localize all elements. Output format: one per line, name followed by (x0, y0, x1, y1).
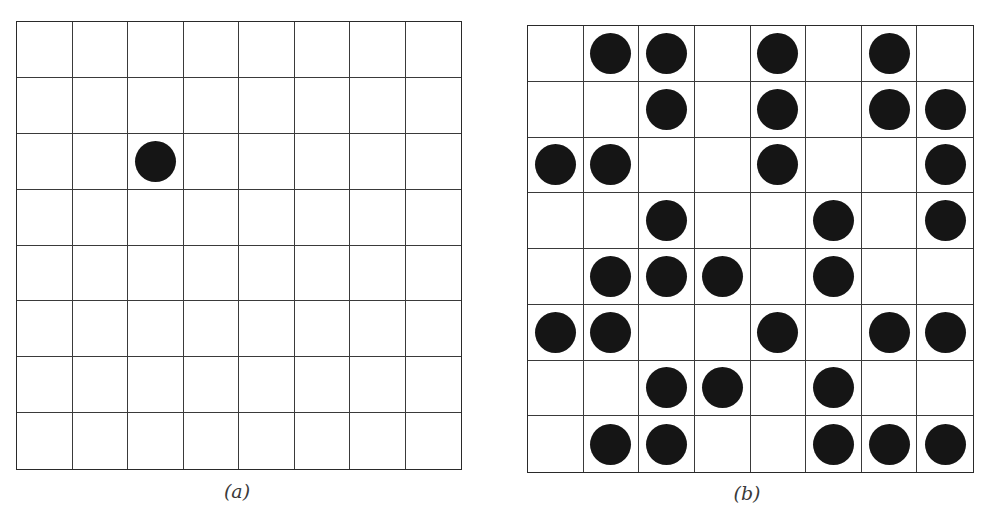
filled-circle-icon (757, 312, 798, 353)
grid-cell (528, 82, 584, 138)
grid-cell (806, 249, 862, 305)
grid-cell (239, 78, 295, 134)
grid-cell (128, 22, 184, 78)
grid-cell (295, 246, 351, 302)
grid-cell (862, 249, 918, 305)
grid-cell (528, 361, 584, 417)
filled-circle-icon (646, 367, 687, 408)
grid-cell (528, 305, 584, 361)
filled-circle-icon (590, 256, 631, 297)
filled-circle-icon (925, 89, 966, 130)
grid-cell (184, 190, 240, 246)
grid-cell (806, 416, 862, 472)
grid-cell (751, 26, 807, 82)
grid-cell (406, 134, 462, 190)
grid-cell (639, 138, 695, 194)
grid-cell (184, 357, 240, 413)
grid-cell (295, 190, 351, 246)
filled-circle-icon (535, 312, 576, 353)
grid-cell (73, 190, 129, 246)
grid-cell (73, 78, 129, 134)
grid-cell (806, 82, 862, 138)
grid-cell (239, 246, 295, 302)
caption-b: (b) (707, 482, 787, 504)
grid-cell (295, 22, 351, 78)
grid-cell (406, 246, 462, 302)
grid-cell (128, 78, 184, 134)
grid-cell (806, 305, 862, 361)
grid-cell (17, 413, 73, 469)
grid-cell (350, 22, 406, 78)
grid-cell (128, 246, 184, 302)
grid-cell (917, 193, 973, 249)
grid-cell (73, 413, 129, 469)
filled-circle-icon (590, 312, 631, 353)
grid-cell (295, 134, 351, 190)
grid-cell (862, 26, 918, 82)
filled-circle-icon (646, 200, 687, 241)
filled-circle-icon (702, 367, 743, 408)
grid-cell (128, 134, 184, 190)
grid-cell (751, 416, 807, 472)
filled-circle-icon (535, 144, 576, 185)
grid-cell (695, 193, 751, 249)
grid-cell (350, 78, 406, 134)
grid-cell (17, 22, 73, 78)
grid-cell (239, 413, 295, 469)
grid-cell (295, 301, 351, 357)
grid-cell (73, 22, 129, 78)
grid-cell (528, 249, 584, 305)
grid-cell (639, 193, 695, 249)
grid-cell (695, 361, 751, 417)
grid-cell (350, 134, 406, 190)
filled-circle-icon (869, 424, 910, 465)
grid-cell (584, 249, 640, 305)
grid-cell (184, 78, 240, 134)
caption-a: (a) (197, 480, 277, 502)
grid-cell (128, 413, 184, 469)
filled-circle-icon (925, 200, 966, 241)
grid-cell (239, 190, 295, 246)
grid-cell (862, 138, 918, 194)
grid-cell (17, 357, 73, 413)
grid-cell (17, 246, 73, 302)
grid-cell (584, 193, 640, 249)
grid-cell (584, 361, 640, 417)
grid-cell (806, 26, 862, 82)
grid-cell (695, 82, 751, 138)
filled-circle-icon (757, 89, 798, 130)
grid-cell (639, 249, 695, 305)
grid-cell (406, 190, 462, 246)
grid-cell (406, 357, 462, 413)
grid-cell (239, 22, 295, 78)
grid-cell (695, 138, 751, 194)
grid-cell (917, 305, 973, 361)
grid-cell (17, 134, 73, 190)
filled-circle-icon (757, 144, 798, 185)
filled-circle-icon (869, 33, 910, 74)
filled-circle-icon (702, 256, 743, 297)
grid-cell (528, 416, 584, 472)
grid-cell (406, 78, 462, 134)
grid-cell (528, 138, 584, 194)
grid-cell (639, 361, 695, 417)
grid-cell (528, 26, 584, 82)
grid-cell (239, 134, 295, 190)
grid-cell (917, 249, 973, 305)
grid-cell (406, 301, 462, 357)
grid-cell (751, 193, 807, 249)
grid-cell (350, 357, 406, 413)
grid-cell (406, 413, 462, 469)
grid-cell (184, 246, 240, 302)
grid-cell (584, 416, 640, 472)
filled-circle-icon (925, 424, 966, 465)
grid-cell (862, 193, 918, 249)
grid-cell (184, 301, 240, 357)
grid-cell (295, 357, 351, 413)
filled-circle-icon (813, 424, 854, 465)
grid-cell (751, 249, 807, 305)
grid-cell (917, 82, 973, 138)
grid-cell (17, 78, 73, 134)
filled-circle-icon (757, 33, 798, 74)
grid-cell (584, 305, 640, 361)
